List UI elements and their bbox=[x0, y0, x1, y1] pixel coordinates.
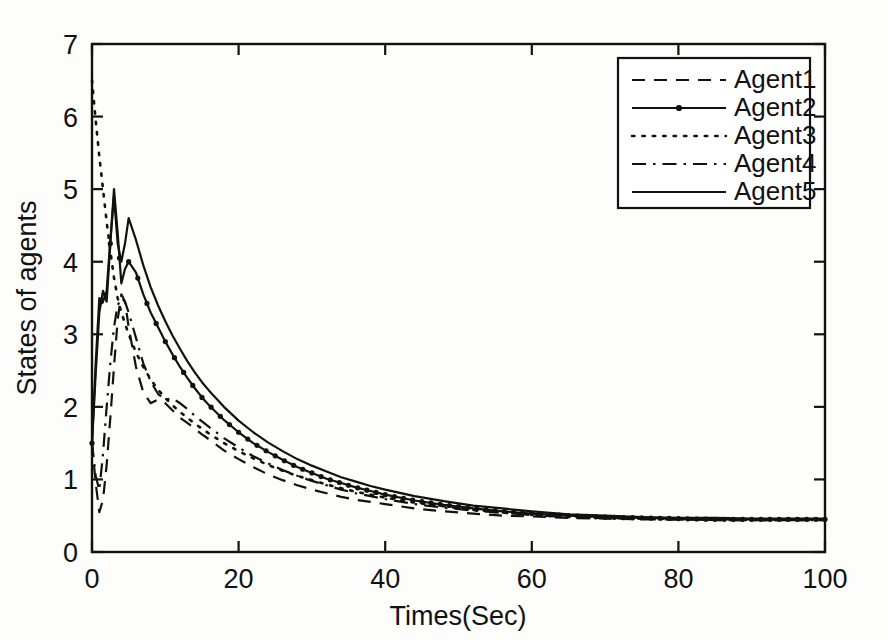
legend-label-agent3: Agent3 bbox=[734, 120, 816, 150]
x-tick-label: 60 bbox=[517, 564, 547, 594]
series-marker-dot bbox=[328, 477, 333, 482]
x-tick-label: 40 bbox=[370, 564, 400, 594]
series-marker-dot bbox=[218, 414, 223, 419]
chart-legend: Agent1Agent2Agent3Agent4Agent5 bbox=[618, 58, 816, 208]
series-marker-dot bbox=[318, 474, 323, 479]
series-marker-dot bbox=[144, 301, 149, 306]
series-marker-dot bbox=[282, 458, 287, 463]
x-tick-label: 80 bbox=[663, 564, 693, 594]
series-marker-dot bbox=[190, 383, 195, 388]
x-tick-label: 0 bbox=[84, 564, 99, 594]
series-marker-dot bbox=[273, 453, 278, 458]
series-marker-dot bbox=[135, 275, 140, 280]
legend-label-agent2: Agent2 bbox=[734, 92, 816, 122]
series-marker-dot bbox=[337, 480, 342, 485]
series-marker-dot bbox=[245, 436, 250, 441]
series-line-agent1 bbox=[92, 294, 825, 520]
series-marker-dot bbox=[236, 430, 241, 435]
series-marker-dot bbox=[172, 355, 177, 360]
series-marker-dot bbox=[181, 370, 186, 375]
y-tick-label: 6 bbox=[63, 103, 78, 133]
y-axis-tick-labels: 01234567 bbox=[63, 30, 78, 568]
y-tick-label: 2 bbox=[63, 393, 78, 423]
series-marker-dot bbox=[300, 467, 305, 472]
series-marker-dot bbox=[199, 395, 204, 400]
series-marker-dot bbox=[154, 321, 159, 326]
series-marker-dot bbox=[346, 483, 351, 488]
x-axis-title: Times(Sec) bbox=[389, 601, 526, 631]
chart-svg: 020406080100 01234567 Times(Sec) States … bbox=[0, 0, 888, 640]
y-tick-label: 5 bbox=[63, 175, 78, 205]
x-axis-tick-labels: 020406080100 bbox=[84, 564, 847, 594]
y-tick-label: 1 bbox=[63, 465, 78, 495]
series-marker-dot bbox=[373, 490, 378, 495]
legend-label-agent4: Agent4 bbox=[734, 148, 816, 178]
series-marker-dot bbox=[227, 422, 232, 427]
series-marker-dot bbox=[291, 463, 296, 468]
series-marker-dot bbox=[209, 405, 214, 410]
y-axis-title: States of agents bbox=[12, 200, 42, 395]
y-tick-label: 0 bbox=[63, 538, 78, 568]
y-tick-label: 3 bbox=[63, 320, 78, 350]
legend-label-agent5: Agent5 bbox=[734, 176, 816, 206]
series-line-agent4 bbox=[92, 298, 825, 520]
legend-label-agent1: Agent1 bbox=[734, 64, 816, 94]
series-marker-dot bbox=[126, 259, 131, 264]
figure-canvas: 020406080100 01234567 Times(Sec) States … bbox=[0, 0, 888, 640]
x-tick-label: 100 bbox=[802, 564, 847, 594]
series-line-agent2 bbox=[92, 189, 825, 519]
x-tick-label: 20 bbox=[224, 564, 254, 594]
y-tick-label: 7 bbox=[63, 30, 78, 60]
series-marker-dot bbox=[263, 448, 268, 453]
legend-sample-marker bbox=[676, 105, 682, 111]
series-marker-dot bbox=[355, 485, 360, 490]
series-line-agent5 bbox=[92, 196, 825, 518]
y-tick-label: 4 bbox=[63, 248, 78, 278]
series-marker-dot bbox=[163, 339, 168, 344]
series-marker-dot bbox=[309, 470, 314, 475]
series-marker-dot bbox=[254, 443, 259, 448]
series-marker-dot bbox=[364, 488, 369, 493]
